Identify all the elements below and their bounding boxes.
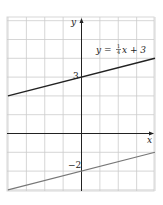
svg-text:x + 3: x + 3: [122, 45, 146, 55]
equation-prefix: y =: [95, 45, 112, 55]
x-axis-label: x: [147, 135, 152, 145]
lower-intercept-label: −2: [68, 160, 81, 170]
upper-intercept-label: 3: [73, 71, 79, 81]
y-axis-label: y: [70, 17, 77, 27]
fraction-denominator: 4: [117, 49, 120, 55]
svg-text:y =: y =: [95, 45, 112, 55]
svg-text:4: 4: [117, 49, 120, 55]
coordinate-plane: y x 3 −2 y = 1 4 x + 3: [0, 0, 163, 205]
equation-suffix: x + 3: [122, 45, 146, 55]
